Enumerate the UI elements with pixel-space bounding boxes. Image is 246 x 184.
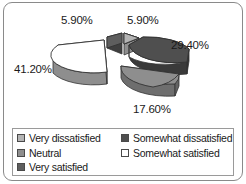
legend-swatch-icon — [17, 134, 25, 142]
legend-label: Somewhat dissatisfied — [133, 132, 232, 144]
chart-figure: 5.90% 5.90% 29.40% 17.60% 41.20% Very di… — [0, 0, 246, 184]
legend-item-somewhat-satisfied[interactable]: Somewhat satisfied — [121, 146, 231, 161]
pie-label-somewhat-dissatisfied: 29.40% — [171, 39, 209, 51]
legend-item-very-dissatisfied[interactable]: Very dissatisfied — [17, 131, 121, 146]
legend-label: Very satisfied — [29, 161, 88, 173]
pie-label-neutral: 17.60% — [133, 103, 171, 115]
pie-label-very-satisfied: 5.90% — [61, 14, 93, 26]
legend-swatch-icon — [17, 149, 25, 157]
legend-swatch-icon — [121, 134, 129, 142]
legend-label: Neutral — [29, 147, 61, 159]
legend-swatch-icon — [17, 163, 25, 171]
legend-item-somewhat-dissatisfied[interactable]: Somewhat dissatisfied — [121, 131, 231, 146]
pie-label-somewhat-satisfied: 41.20% — [14, 63, 52, 75]
pie-label-very-dissatisfied: 5.90% — [127, 14, 159, 26]
legend-item-neutral[interactable]: Neutral — [17, 146, 121, 161]
pie-plot-area: 5.90% 5.90% 29.40% 17.60% 41.20% — [3, 3, 243, 125]
legend-swatch-icon — [121, 149, 129, 157]
slice-somewhat-satisfied[interactable] — [51, 40, 107, 85]
slice-very-satisfied[interactable] — [107, 33, 122, 54]
chart-legend: Very dissatisfied Somewhat dissatisfied … — [12, 128, 234, 176]
legend-label: Somewhat satisfied — [133, 147, 220, 159]
legend-item-very-satisfied[interactable]: Very satisfied — [17, 160, 121, 175]
legend-label: Very dissatisfied — [29, 132, 101, 144]
legend-grid: Very dissatisfied Somewhat dissatisfied … — [17, 131, 231, 175]
